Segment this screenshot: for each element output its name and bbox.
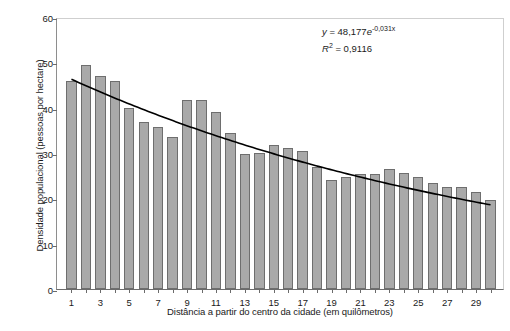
x-tick-mark [230,289,231,293]
r-squared-line: R2 = 0,9116 [322,39,395,55]
x-tick-mark [418,289,419,293]
equation-exponent: -0,031x [372,25,395,32]
x-tick-mark [433,289,434,293]
y-tick-mark [53,155,57,156]
y-tick-mark [53,110,57,111]
plot-area: 0102030405060 1357911131517192123252729 [56,18,504,290]
y-tick-label: 10 [31,241,53,251]
x-axis-title: Distância a partir do centro da cidade (… [56,306,504,317]
y-tick-label: 20 [31,195,53,205]
r-squared-value: = 0,9116 [333,43,372,54]
x-tick-mark [462,289,463,293]
x-tick-mark [274,289,275,293]
y-tick-label: 50 [31,59,53,69]
y-tick-mark [53,246,57,247]
x-tick-mark [375,289,376,293]
x-tick-mark [360,289,361,293]
chart-container: Densidade populacional (pessoas por hect… [0,0,510,331]
x-tick-mark [346,289,347,293]
equation-line: y = 48,177e-0,031x [322,22,395,38]
x-tick-mark [404,289,405,293]
x-tick-mark [202,289,203,293]
x-tick-mark [447,289,448,293]
x-tick-mark [303,289,304,293]
x-tick-mark [86,289,87,293]
x-tick-mark [389,289,390,293]
y-tick-mark [53,19,57,20]
x-tick-mark [259,289,260,293]
equation-coefficient: = 48,177 [327,26,367,37]
y-tick-mark [53,64,57,65]
x-tick-mark [187,289,188,293]
x-tick-mark [288,289,289,293]
y-tick-mark [53,291,57,292]
y-tick-mark [53,200,57,201]
x-tick-mark [216,289,217,293]
y-tick-label: 40 [31,105,53,115]
x-tick-mark [476,289,477,293]
trendline-path [71,79,490,205]
x-tick-mark [115,289,116,293]
x-tick-mark [173,289,174,293]
y-tick-label: 60 [31,14,53,24]
y-tick-label: 30 [31,150,53,160]
equation-annotation: y = 48,177e-0,031x R2 = 0,9116 [322,22,395,55]
x-tick-mark [317,289,318,293]
trendline [57,19,505,291]
x-tick-mark [71,289,72,293]
r-symbol: R [322,43,329,54]
x-tick-mark [245,289,246,293]
x-tick-mark [129,289,130,293]
x-tick-mark [491,289,492,293]
x-tick-mark [158,289,159,293]
x-tick-mark [100,289,101,293]
x-tick-mark [332,289,333,293]
y-tick-label: 0 [31,286,53,296]
x-tick-mark [144,289,145,293]
